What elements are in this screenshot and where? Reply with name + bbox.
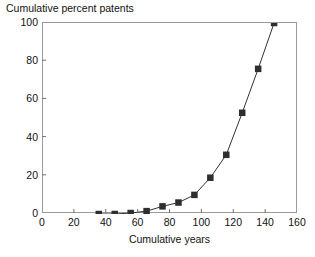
y-tick-label: 40 xyxy=(4,131,38,142)
data-point-marker xyxy=(207,174,214,181)
y-tick-label: 60 xyxy=(4,93,38,104)
x-axis-tick-labels: 020406080100120140160 xyxy=(42,217,297,231)
chart-figure: Cumulative percent patents 020406080100 … xyxy=(0,0,315,257)
data-point-marker xyxy=(239,110,246,117)
data-point-marker xyxy=(271,23,278,26)
series-line xyxy=(99,23,274,214)
data-point-marker xyxy=(143,208,150,214)
y-tick-label: 20 xyxy=(4,169,38,180)
y-axis-tick-labels: 020406080100 xyxy=(0,22,38,213)
series-markers xyxy=(96,23,278,214)
data-point-marker xyxy=(159,203,166,210)
x-tick-label: 160 xyxy=(277,217,315,228)
data-point-marker xyxy=(255,66,262,73)
plot-area xyxy=(42,22,297,213)
plot-svg xyxy=(43,23,298,214)
data-point-marker xyxy=(111,211,118,214)
y-tick-label: 80 xyxy=(4,55,38,66)
data-point-marker xyxy=(175,199,182,206)
data-point-marker xyxy=(223,152,230,159)
chart-title: Cumulative percent patents xyxy=(6,2,134,14)
x-axis-title: Cumulative years xyxy=(42,233,297,245)
y-tick-label: 100 xyxy=(4,17,38,28)
data-point-marker xyxy=(191,192,198,199)
data-point-marker xyxy=(96,211,103,214)
data-point-marker xyxy=(127,210,134,214)
